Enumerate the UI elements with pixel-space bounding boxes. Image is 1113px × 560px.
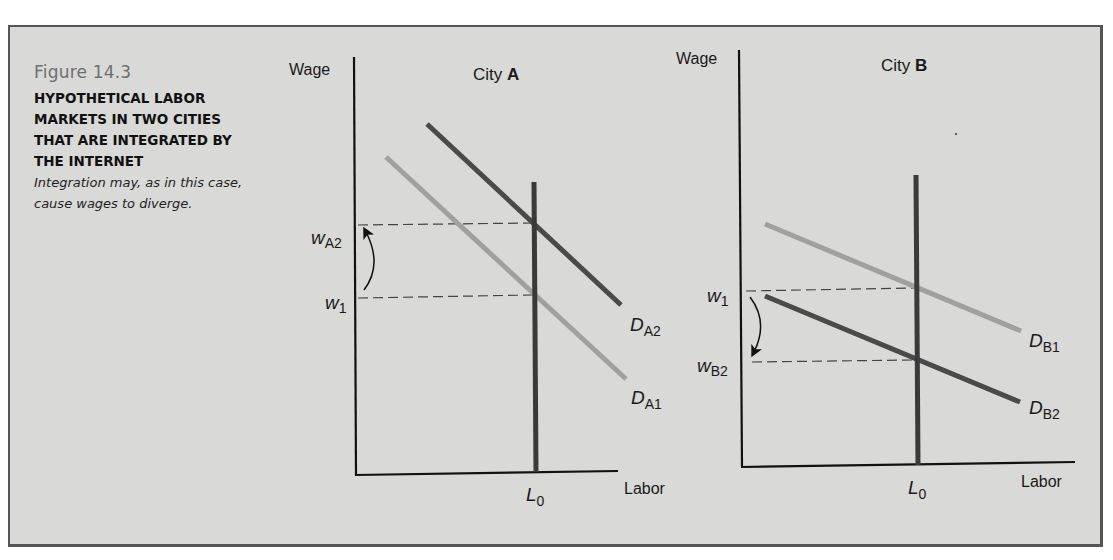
city-a-wage-a2-label: wA2 bbox=[311, 227, 342, 251]
city-a-demand-da1 bbox=[386, 157, 626, 379]
panel-city-a: Wage City A wA2 w1 DA2 DA1 L0 Labor bbox=[289, 57, 666, 509]
city-a-l0-label: L0 bbox=[526, 484, 545, 509]
city-a-da2-label: DA2 bbox=[630, 314, 661, 339]
city-a-demand-da2 bbox=[427, 124, 621, 305]
labor-market-charts: Wage City A wA2 w1 DA2 DA1 L0 Labor Wage… bbox=[0, 0, 1113, 560]
city-a-x-axis bbox=[355, 471, 618, 475]
city-b-y-axis bbox=[739, 50, 742, 467]
city-b-title: City B bbox=[881, 56, 927, 75]
city-a-da1-label: DA1 bbox=[631, 387, 662, 412]
city-a-title: City A bbox=[473, 65, 519, 84]
city-b-db2-label: DB2 bbox=[1029, 397, 1060, 422]
city-b-wage-b2-label: wB2 bbox=[697, 355, 728, 379]
city-a-arrow-up-icon bbox=[364, 232, 374, 290]
city-b-x-axis bbox=[741, 462, 1075, 467]
city-b-demand-db1 bbox=[765, 224, 1021, 331]
city-b-labor-supply-l0 bbox=[916, 175, 918, 465]
city-b-wage-1-dashed bbox=[746, 288, 914, 291]
city-b-y-axis-label: Wage bbox=[676, 50, 717, 67]
panel-city-b: Wage City B w1 wB2 DB1 DB2 L0 Labor bbox=[676, 50, 1075, 502]
speck bbox=[955, 133, 957, 135]
city-b-db1-label: DB1 bbox=[1029, 330, 1060, 355]
city-a-y-axis-label: Wage bbox=[289, 61, 330, 78]
city-a-x-axis-label: Labor bbox=[624, 480, 666, 497]
city-a-wage-a2-dashed bbox=[358, 223, 533, 225]
city-a-wage-1-dashed bbox=[358, 295, 533, 298]
city-b-wage-b2-dashed bbox=[752, 360, 914, 362]
city-b-arrow-down-icon bbox=[750, 297, 761, 352]
city-a-labor-supply-l0 bbox=[534, 182, 536, 472]
city-b-wage-1-label: w1 bbox=[707, 285, 729, 309]
city-b-l0-label: L0 bbox=[908, 477, 927, 502]
city-b-x-axis-label: Labor bbox=[1021, 473, 1063, 490]
city-a-y-axis bbox=[354, 57, 356, 475]
city-a-wage-1-label: w1 bbox=[325, 292, 347, 316]
